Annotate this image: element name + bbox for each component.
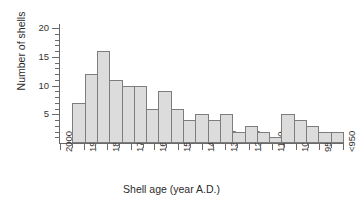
histogram-bar — [281, 114, 294, 143]
x-tick-minor — [213, 143, 214, 148]
x-tick-minor — [72, 143, 73, 148]
histogram-bar — [109, 80, 122, 143]
histogram-bar — [208, 120, 221, 143]
histogram-bar — [232, 132, 245, 144]
histogram-bar — [245, 126, 258, 143]
y-tick-major — [52, 57, 60, 58]
x-tick — [178, 143, 179, 150]
y-tick-label: 20 — [38, 23, 49, 32]
histogram-bar — [306, 126, 319, 143]
x-tick — [60, 143, 61, 150]
histogram-bar — [257, 132, 270, 144]
histogram-bar — [269, 137, 282, 143]
x-tick — [272, 143, 273, 150]
y-tick-label: 5 — [44, 109, 49, 118]
x-tick — [296, 143, 297, 150]
x-tick-minor — [95, 143, 96, 148]
x-tick-minor — [143, 143, 144, 148]
histogram-bar — [97, 51, 110, 143]
x-tick-minor — [284, 143, 285, 148]
x-tick-minor — [190, 143, 191, 148]
x-tick-minor — [237, 143, 238, 148]
x-tick — [154, 143, 155, 150]
x-axis-title: Shell age (year A.D.) — [0, 183, 343, 195]
histogram-bar — [171, 109, 184, 144]
x-tick — [343, 143, 344, 150]
x-tick — [319, 143, 320, 150]
histogram-bar — [294, 120, 307, 143]
histogram-bar — [331, 132, 344, 144]
y-tick-label: 10 — [38, 81, 49, 90]
x-tick-minor — [119, 143, 120, 148]
y-tick-label: 15 — [38, 52, 49, 61]
x-tick — [131, 143, 132, 150]
y-axis-title: Number of shells — [15, 0, 27, 111]
x-tick — [225, 143, 226, 150]
histogram-bar — [146, 109, 159, 144]
y-tick-major — [52, 28, 60, 29]
x-tick-minor — [260, 143, 261, 148]
histogram-bar — [85, 74, 98, 143]
histogram-bar — [220, 114, 233, 143]
histogram-bar — [134, 86, 147, 144]
histogram-bar — [195, 114, 208, 143]
x-tick-minor — [166, 143, 167, 148]
x-tick-minor — [331, 143, 332, 148]
x-tick — [107, 143, 108, 150]
x-tick-label: <950 — [347, 131, 356, 152]
x-tick-minor — [308, 143, 309, 148]
histogram-bar — [72, 103, 85, 143]
histogram-bar — [318, 132, 331, 144]
histogram-bar — [158, 91, 171, 143]
x-tick — [202, 143, 203, 150]
histogram-bar — [183, 120, 196, 143]
histogram-bar — [122, 86, 135, 144]
plot-area — [60, 28, 343, 143]
y-tick-major — [52, 114, 60, 115]
x-tick — [249, 143, 250, 150]
x-tick — [84, 143, 85, 150]
y-tick-major — [52, 86, 60, 87]
